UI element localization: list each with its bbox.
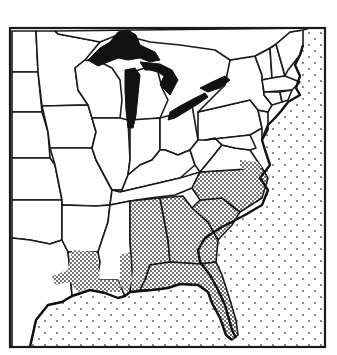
state-iowa bbox=[42, 105, 96, 148]
state-south-dakota bbox=[12, 72, 42, 112]
state-north-dakota bbox=[12, 31, 38, 72]
state-oklahoma bbox=[12, 200, 62, 244]
state-massachusetts bbox=[262, 76, 300, 92]
map-figure bbox=[0, 0, 337, 355]
eastern-us-map bbox=[0, 0, 337, 355]
